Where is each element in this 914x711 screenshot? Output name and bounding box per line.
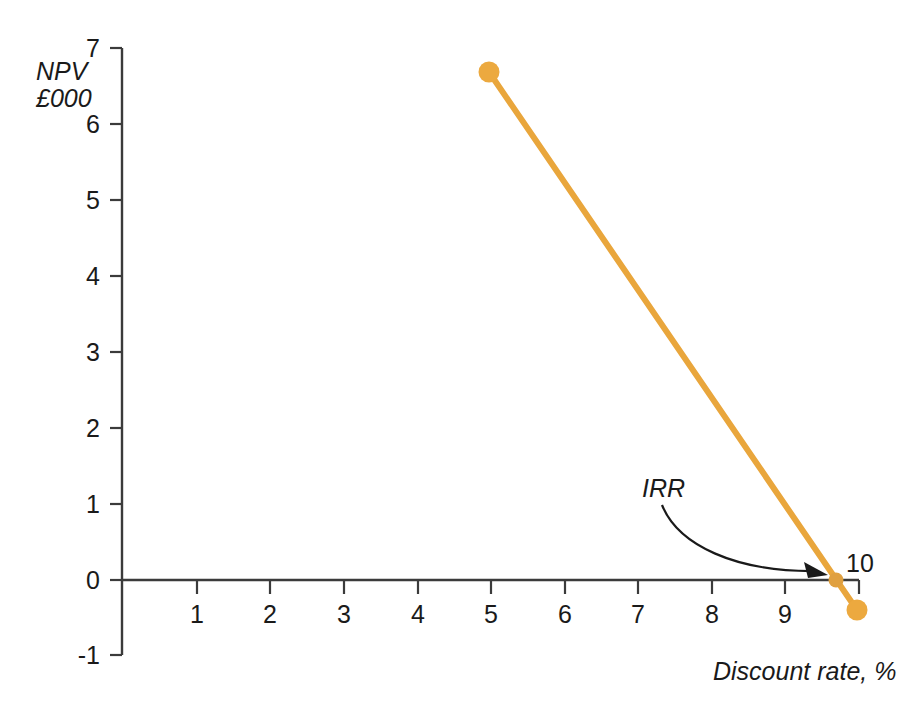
x-tick-label-4: 4 xyxy=(411,600,425,628)
chart-canvas: 7 6 5 4 3 2 1 0 -1 1 2 3 4 5 6 7 8 9 NPV… xyxy=(0,0,914,711)
y-tick-label-2: 2 xyxy=(86,414,100,442)
y-tick-label-4: 4 xyxy=(86,262,100,290)
x-tick-label-3: 3 xyxy=(337,600,351,628)
x-tick-label-8: 8 xyxy=(705,600,719,628)
x-tick-label-1: 1 xyxy=(190,600,204,628)
y-tick-label-0: 0 xyxy=(86,566,100,594)
x-axis-ticks xyxy=(197,580,859,594)
x-tick-label-5: 5 xyxy=(484,600,498,628)
x-axis-title: Discount rate, % xyxy=(713,657,896,685)
y-axis-title-line1: NPV xyxy=(36,57,90,85)
y-tick-label-minus1: -1 xyxy=(78,641,100,669)
data-point-marker-end xyxy=(847,600,868,621)
x-tick-label-7: 7 xyxy=(631,600,645,628)
y-tick-label-3: 3 xyxy=(86,338,100,366)
irr-annotation-label: IRR xyxy=(642,474,685,502)
y-tick-label-1: 1 xyxy=(86,490,100,518)
x-tick-label-6: 6 xyxy=(558,600,572,628)
x-tick-label-9: 9 xyxy=(778,600,792,628)
data-point-marker-irr xyxy=(829,573,844,588)
chart-figure: 7 6 5 4 3 2 1 0 -1 1 2 3 4 5 6 7 8 9 NPV… xyxy=(0,0,914,711)
x-tick-label-2: 2 xyxy=(263,600,277,628)
y-tick-label-5: 5 xyxy=(86,186,100,214)
y-axis-ticks xyxy=(110,48,122,655)
y-tick-label-7: 7 xyxy=(86,34,100,62)
data-point-marker-start xyxy=(479,62,500,83)
x-tick-label-10: 10 xyxy=(846,549,874,577)
y-tick-label-6: 6 xyxy=(86,110,100,138)
npv-series-line xyxy=(489,72,857,610)
y-axis-title-line2: £000 xyxy=(35,84,92,112)
